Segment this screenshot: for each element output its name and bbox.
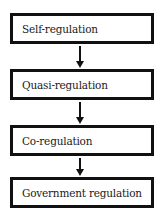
- node-self-regulation: Self-regulation: [10, 13, 154, 44]
- node-label: Co-regulation: [13, 135, 92, 147]
- node-co-regulation: Co-regulation: [10, 125, 154, 156]
- arrow-down-icon: [76, 169, 84, 176]
- connector-line: [79, 46, 81, 62]
- node-label: Self-regulation: [13, 23, 98, 35]
- node-label: Quasi-regulation: [13, 79, 108, 91]
- node-quasi-regulation: Quasi-regulation: [10, 69, 154, 100]
- connector-line: [79, 102, 81, 118]
- arrow-down-icon: [76, 61, 84, 68]
- arrow-down-icon: [76, 117, 84, 124]
- node-label: Government regulation: [13, 187, 142, 199]
- node-government-regulation: Government regulation: [10, 177, 154, 208]
